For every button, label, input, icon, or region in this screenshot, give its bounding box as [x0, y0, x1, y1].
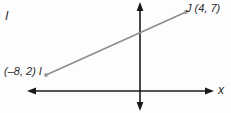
- geometry-canvas: [0, 0, 231, 113]
- y-axis-arrow-down-icon: [137, 102, 144, 111]
- point-i-marker: [44, 73, 48, 77]
- line-label-l: : l: [0, 9, 9, 22]
- line-l: [44, 10, 188, 77]
- x-axis-arrow-left-icon: [27, 88, 36, 95]
- coordinate-plane-figure: : l (–8, 2) I J (4, 7) x: [0, 0, 231, 113]
- point-label-i: (–8, 2) I: [4, 66, 42, 77]
- y-axis: [137, 2, 144, 111]
- x-axis-label: x: [218, 84, 224, 96]
- x-axis: [27, 88, 214, 95]
- line-l-segment: [46, 12, 186, 75]
- y-axis-arrow-up-icon: [137, 2, 144, 11]
- point-label-j: J (4, 7): [186, 3, 220, 14]
- x-axis-arrow-right-icon: [205, 88, 214, 95]
